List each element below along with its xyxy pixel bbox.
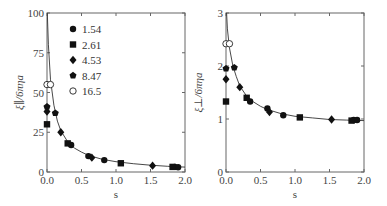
plot-frame (226, 13, 364, 172)
y-axis-label: ξ∥/6πηa (13, 75, 26, 110)
y-tick-label: 0 (39, 166, 45, 178)
y-axis-label: ξ⊥/6πηa (192, 72, 205, 113)
x-tick-label: 1.0 (288, 174, 302, 186)
x-axis-label: s (114, 188, 118, 200)
y-tick-label: 0 (218, 166, 224, 178)
plot-frame (47, 13, 185, 172)
chart-canvas: 0.00.51.01.52.00255075100sξ∥/6πηa1.542.6… (0, 0, 387, 206)
fit-curve (227, 13, 364, 121)
x-tick-label: 1.5 (323, 174, 337, 186)
series-4.53 (222, 75, 335, 124)
x-tick-label: 1.0 (109, 174, 123, 186)
legend-label: 1.54 (82, 23, 102, 35)
y-tick-label: 2 (218, 60, 224, 72)
series-4.53 (43, 107, 156, 169)
legend-label: 16.5 (82, 85, 102, 97)
y-tick-label: 75 (33, 47, 45, 59)
y-tick-label: 1 (218, 113, 224, 125)
x-tick-label: 0.5 (75, 174, 89, 186)
series-2.61 (44, 121, 176, 170)
y-tick-label: 3 (218, 7, 224, 19)
right-plot: 0.00.51.01.52.00123sξ⊥/6πηa (192, 7, 371, 200)
x-tick-label: 0.5 (254, 174, 268, 186)
legend-label: 8.47 (82, 70, 102, 82)
x-tick-label: 2.0 (357, 174, 371, 186)
left-plot: 0.00.51.01.52.00255075100sξ∥/6πηa1.542.6… (13, 7, 192, 200)
y-tick-label: 25 (33, 126, 45, 138)
y-tick-label: 100 (28, 7, 45, 19)
legend: 1.542.614.538.4716.5 (69, 23, 101, 97)
series-16.5 (44, 81, 54, 87)
legend-label: 4.53 (82, 54, 102, 66)
series-8.47 (223, 64, 238, 72)
series-1.54 (247, 98, 360, 123)
legend-label: 2.61 (82, 39, 101, 51)
series-16.5 (223, 41, 233, 47)
x-axis-label: s (293, 188, 297, 200)
x-tick-label: 1.5 (144, 174, 158, 186)
x-tick-label: 2.0 (178, 174, 192, 186)
y-tick-label: 50 (33, 87, 45, 99)
